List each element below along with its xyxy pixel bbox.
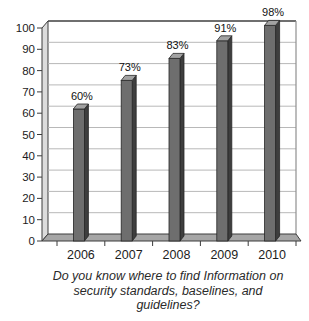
bar-side-face xyxy=(180,53,184,241)
x-axis-label: 2009 xyxy=(210,248,238,262)
bar-front-face xyxy=(169,58,180,241)
y-axis-label: 60 xyxy=(22,107,35,119)
value-label: 83% xyxy=(166,39,188,51)
y-axis-label: 100 xyxy=(16,22,35,34)
value-label: 91% xyxy=(214,22,236,34)
bar-side-face xyxy=(84,104,88,241)
bar-side-face xyxy=(132,75,136,241)
x-axis-label: 2006 xyxy=(67,248,95,262)
bar-chart-figure: 010203040506070809010060%200673%200783%2… xyxy=(0,0,309,321)
y-axis-label: 0 xyxy=(29,235,35,247)
x-axis-label: 2008 xyxy=(163,248,191,262)
x-axis-label: 2010 xyxy=(258,248,286,262)
y-axis-label: 70 xyxy=(22,86,35,98)
chart-caption: Do you know where to find Information on… xyxy=(28,269,308,313)
x-axis-label: 2007 xyxy=(115,248,143,262)
value-label: 60% xyxy=(71,90,93,102)
bar-side-face xyxy=(228,36,232,241)
bar-2009: 91% xyxy=(214,22,236,241)
y-axis-label: 40 xyxy=(22,150,35,162)
y-axis-label: 20 xyxy=(22,192,35,204)
bar-side-face xyxy=(276,20,280,241)
bar-2007: 73% xyxy=(119,61,141,241)
bar-front-face xyxy=(121,80,132,241)
chart-canvas: 010203040506070809010060%200673%200783%2… xyxy=(0,0,309,268)
value-label: 98% xyxy=(262,6,284,18)
bar-2010: 98% xyxy=(262,6,284,241)
y-axis-label: 30 xyxy=(22,171,35,183)
bar-front-face xyxy=(73,109,84,241)
y-axis-label: 10 xyxy=(22,214,35,226)
y-axis-label: 90 xyxy=(22,43,35,55)
y-axis-label: 80 xyxy=(22,65,35,77)
bar-2008: 83% xyxy=(166,39,188,241)
bar-front-face xyxy=(217,41,228,241)
value-label: 73% xyxy=(119,61,141,73)
caption-line-3: guidelines? xyxy=(28,298,308,313)
left-wall xyxy=(42,21,48,241)
caption-line-1: Do you know where to find Information on xyxy=(28,269,308,284)
bar-front-face xyxy=(265,25,276,241)
y-axis-label: 50 xyxy=(22,129,35,141)
bar-2006: 60% xyxy=(71,90,93,241)
caption-line-2: security standards, baselines, and xyxy=(28,284,308,299)
